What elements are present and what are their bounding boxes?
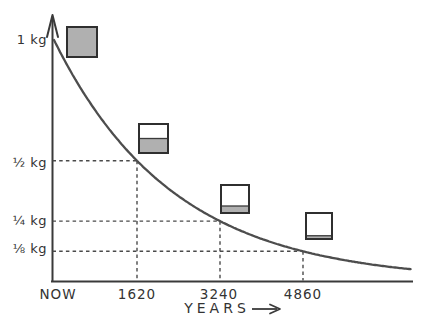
sample-box-1 [139,124,168,153]
y-tick-label-1kg: 1 kg [5,32,47,48]
half-life-decay-diagram: 1 kg ½ kg ¼ kg ⅛ kg NOW 1620 3240 4860 Y… [0,0,427,333]
decay-curve [54,40,411,269]
x-tick-label-now: NOW [39,287,76,302]
x-tick-label-1620: 1620 [118,287,156,302]
x-tick-label-4860: 4860 [284,287,322,302]
y-axis [47,15,58,282]
x-axis-title: YEARS [184,301,250,316]
y-tick-label-half-kg: ½ kg [5,155,47,171]
y-tick-label-eighth-kg: ⅛ kg [5,241,47,257]
x-axis-arrow-icon [252,305,280,314]
chart-canvas [0,0,427,333]
box-remaining-fill [221,206,249,213]
y-tick-label-quarter-kg: ¼ kg [5,213,47,229]
sample-box-0 [67,27,97,57]
dashed-guides [53,161,304,281]
box-remaining-fill [67,27,97,57]
box-remaining-fill [139,139,168,154]
sample-box-2 [221,185,249,213]
sample-box-3 [306,213,332,239]
sample-boxes [67,27,332,239]
